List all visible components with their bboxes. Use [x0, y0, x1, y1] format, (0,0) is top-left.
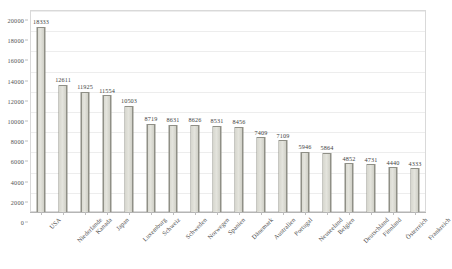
bar-value-label: 8719: [145, 115, 158, 122]
bar-slot: 4731: [360, 10, 382, 212]
x-axis-labels: USANiederlandeKanadaJapanLuxemburgSchwei…: [30, 216, 426, 269]
bar-slot: 8719: [140, 10, 162, 212]
y-axis-tick-mark: [25, 201, 28, 202]
x-axis-tick-mark: [41, 212, 42, 215]
bar[interactable]: [147, 124, 156, 212]
bar-value-label: 8531: [211, 117, 224, 124]
x-axis-tick-mark: [393, 212, 394, 215]
y-axis-tick-mark: [25, 222, 28, 223]
x-axis-tick-mark: [371, 212, 372, 215]
bar-slot: 12611: [52, 10, 74, 212]
x-axis-category-label: Österreich: [404, 216, 428, 240]
bar-value-label: 10503: [121, 97, 137, 104]
bar-value-label: 8631: [167, 116, 180, 123]
x-axis-tick-mark: [151, 212, 152, 215]
x-axis-tick-mark: [85, 212, 86, 215]
x-axis-tick-mark: [261, 212, 262, 215]
bar-value-label: 5864: [321, 144, 334, 151]
x-axis-tick-mark: [327, 212, 328, 215]
bar-value-label: 4333: [409, 160, 422, 167]
bar[interactable]: [257, 137, 266, 212]
bars-container: 1833312611119251155410503871986318626853…: [30, 10, 426, 212]
bar[interactable]: [125, 106, 134, 212]
x-axis-category-label: Japan: [114, 216, 130, 232]
y-axis-tick-label: 12000: [8, 97, 24, 104]
bar[interactable]: [103, 95, 112, 212]
bar[interactable]: [411, 168, 420, 212]
bar-slot: 7109: [272, 10, 294, 212]
bar[interactable]: [213, 126, 222, 212]
bar-value-label: 11554: [99, 87, 115, 94]
y-axis-tick-mark: [25, 60, 28, 61]
x-axis-tick-mark: [217, 212, 218, 215]
y-axis-tick-mark: [25, 100, 28, 101]
bar-slot: 4333: [404, 10, 426, 212]
y-axis-tick-label: 10000: [8, 118, 24, 125]
bar-value-label: 7109: [277, 132, 290, 139]
y-axis-tick-mark: [25, 161, 28, 162]
bar[interactable]: [81, 92, 90, 212]
x-axis-category-label: USA: [48, 216, 62, 230]
x-axis-tick-mark: [349, 212, 350, 215]
bar-value-label: 4440: [387, 159, 400, 166]
bar-value-label: 18333: [33, 18, 49, 25]
bar-value-label: 12611: [55, 76, 71, 83]
bar[interactable]: [37, 27, 46, 212]
y-axis-tick-label: 0: [21, 219, 24, 226]
bar[interactable]: [279, 140, 288, 212]
bar[interactable]: [345, 163, 354, 212]
y-axis-tick-label: 18000: [8, 37, 24, 44]
y-axis-tick-mark: [25, 141, 28, 142]
bar-slot: 7409: [250, 10, 272, 212]
bar-value-label: 5946: [299, 143, 312, 150]
x-axis-tick-mark: [305, 212, 306, 215]
y-axis-tick-label: 8000: [11, 138, 24, 145]
x-axis-category-label: Norwegen: [206, 216, 230, 240]
bar-value-label: 4731: [365, 156, 378, 163]
x-axis-tick-mark: [195, 212, 196, 215]
x-axis-category-label: Australien: [272, 216, 296, 240]
x-axis-tick-mark: [415, 212, 416, 215]
bar-slot: 8456: [228, 10, 250, 212]
bar[interactable]: [301, 152, 310, 212]
y-axis-tick-mark: [25, 80, 28, 81]
bar-slot: 4852: [338, 10, 360, 212]
x-axis-tick-mark: [283, 212, 284, 215]
bar-value-label: 7409: [255, 129, 268, 136]
x-axis-category-label: Dänemark: [250, 216, 274, 240]
y-axis-tick-label: 16000: [8, 57, 24, 64]
bar-slot: 5946: [294, 10, 316, 212]
x-axis-tick-mark: [239, 212, 240, 215]
y-axis-tick-mark: [25, 181, 28, 182]
bar-value-label: 8456: [233, 118, 246, 125]
x-axis-tick-mark: [173, 212, 174, 215]
y-axis-tick-label: 6000: [11, 158, 24, 165]
y-axis-tick-mark: [25, 20, 28, 21]
x-axis-category-label: Frankreich: [426, 216, 451, 241]
bar[interactable]: [323, 153, 332, 212]
bar-slot: 11554: [96, 10, 118, 212]
bar-slot: 4440: [382, 10, 404, 212]
bar-slot: 5864: [316, 10, 338, 212]
y-axis: 0200040006000800010000120001400016000180…: [0, 10, 28, 212]
y-axis-tick-label: 14000: [8, 77, 24, 84]
bar[interactable]: [389, 167, 398, 212]
bar-value-label: 11925: [77, 83, 93, 90]
y-axis-tick-mark: [25, 40, 28, 41]
bar-slot: 8631: [162, 10, 184, 212]
bar[interactable]: [169, 125, 178, 212]
bar[interactable]: [235, 127, 244, 212]
bar[interactable]: [59, 85, 68, 212]
y-axis-tick-label: 20000: [8, 17, 24, 24]
x-axis-tick-mark: [107, 212, 108, 215]
y-axis-tick-label: 2000: [11, 198, 24, 205]
x-axis-tick-mark: [129, 212, 130, 215]
bar-slot: 8531: [206, 10, 228, 212]
bar-slot: 10503: [118, 10, 140, 212]
bar-slot: 8626: [184, 10, 206, 212]
bar-slot: 11925: [74, 10, 96, 212]
bar[interactable]: [191, 125, 200, 212]
bar[interactable]: [367, 164, 376, 212]
bar-value-label: 4852: [343, 155, 356, 162]
